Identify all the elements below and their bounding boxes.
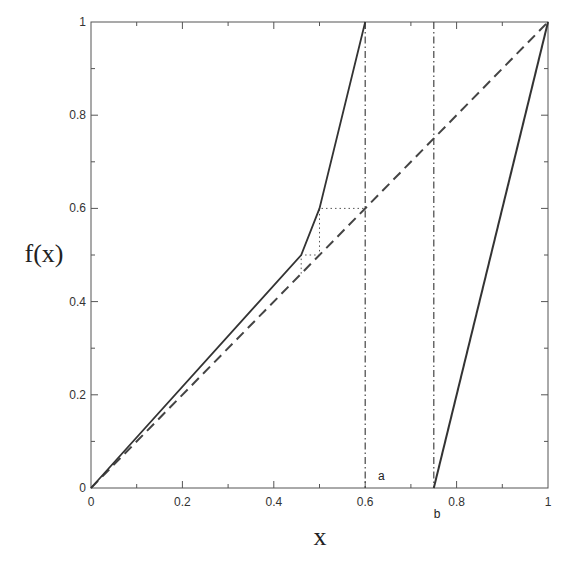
x-tick-label: 0.8 xyxy=(448,495,465,509)
x-tick-label: 0.4 xyxy=(265,495,282,509)
y-tick-label: 0.2 xyxy=(69,388,86,402)
x-tick-label: 0 xyxy=(88,495,95,509)
y-tick-label: 0.6 xyxy=(69,201,86,215)
map-branch-2 xyxy=(434,22,548,488)
map-branch-1 xyxy=(91,22,365,488)
x-axis-title: x xyxy=(314,522,327,551)
x-tick-label: 1 xyxy=(545,495,552,509)
x-tick-label: 0.6 xyxy=(357,495,374,509)
y-tick-label: 0 xyxy=(79,481,86,495)
y-tick-label: 0.4 xyxy=(69,295,86,309)
chart: 0 0.2 0.4 0.6 0.8 1 0 0.2 0.4 0.6 0.8 1 … xyxy=(0,0,569,569)
annotation-a: a xyxy=(378,469,385,483)
y-axis-title: f(x) xyxy=(25,239,64,268)
x-tick-label: 0.2 xyxy=(174,495,191,509)
annotation-b: b xyxy=(434,507,441,521)
y-tick-label: 1 xyxy=(79,15,86,29)
y-tick-label: 0.8 xyxy=(69,108,86,122)
